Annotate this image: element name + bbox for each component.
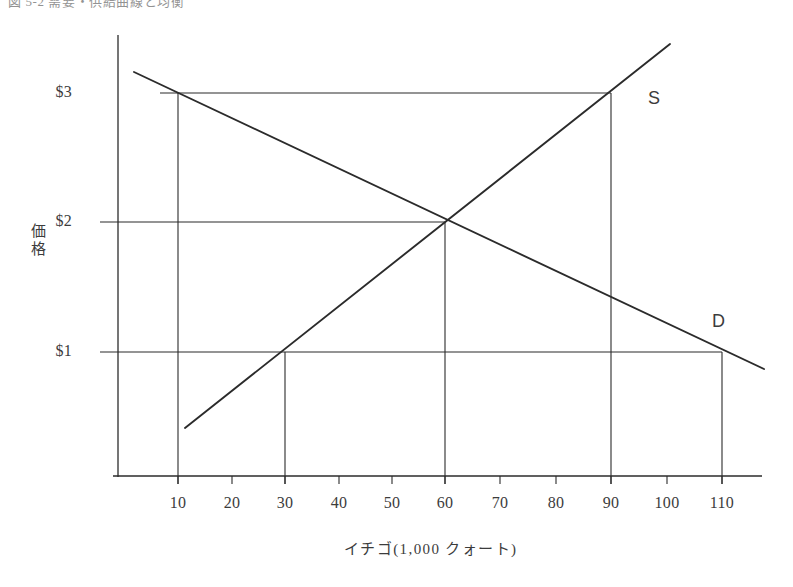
x-tick-label-100: 100 [645,494,689,512]
x-axis-title: イチゴ(1,000 クォート) [344,537,518,558]
x-axis-ticks [178,476,722,484]
x-tick-label-10: 10 [156,494,200,512]
x-tick-label-50: 50 [370,494,414,512]
x-tick-label-90: 90 [589,494,633,512]
x-tick-label-70: 70 [478,494,522,512]
x-tick-label-110: 110 [700,494,744,512]
x-tick-label-80: 80 [534,494,578,512]
x-tick-label-40: 40 [317,494,361,512]
y-axis-title: 価格 [29,222,47,259]
x-tick-label-60: 60 [423,494,467,512]
price-gridlines [100,93,722,352]
y-tick-label-3: $3 [18,83,72,101]
figure-container: 図 5-2 需要・供給曲線と均衡 [0,0,793,587]
quantity-droplines [178,93,722,484]
x-tick-label-20: 20 [210,494,254,512]
demand-curve-label: D [712,311,725,332]
demand-curve [134,72,764,369]
x-tick-label-30: 30 [263,494,307,512]
supply-curve-label: S [648,88,660,109]
y-tick-label-1: $1 [18,342,72,360]
supply-curve [185,44,670,428]
